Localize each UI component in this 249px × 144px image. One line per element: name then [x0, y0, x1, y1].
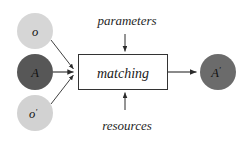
label-parameters: parameters — [96, 13, 156, 28]
diagram-canvas: matching o A o′ A′ parameters resources — [0, 0, 249, 144]
node-a-label: A — [30, 66, 39, 80]
label-resources: resources — [102, 118, 152, 133]
node-o-label: o — [32, 25, 38, 39]
edge-o-prime-to-matching — [51, 75, 74, 104]
diagram-svg: matching o A o′ A′ parameters resources — [0, 0, 249, 144]
edge-o-to-matching — [51, 40, 74, 69]
process-box-label: matching — [97, 66, 149, 81]
